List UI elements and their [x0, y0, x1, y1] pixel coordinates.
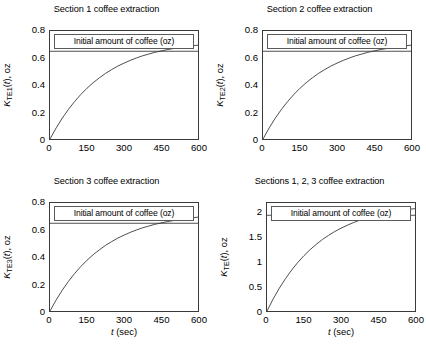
x-tick-label: 450	[366, 143, 382, 153]
y-tick-label: 0.8	[32, 25, 45, 35]
subplot-title: Section 3 coffee extraction	[0, 176, 213, 187]
x-tick-label: 150	[295, 315, 311, 325]
subplot-title: Section 2 coffee extraction	[213, 4, 426, 15]
x-axis-label: t (sec)	[266, 326, 416, 337]
y-axis-label-sub2: 3	[5, 259, 14, 263]
y-tick-label: 0.6	[245, 53, 258, 63]
x-tick-label: 600	[191, 315, 207, 325]
x-tick-label: 0	[46, 315, 51, 325]
y-tick-label: 0.6	[32, 225, 45, 235]
y-tick-label: 0.6	[32, 53, 45, 63]
y-axis-label-sub: TE	[218, 91, 227, 100]
legend-initial-amount: Initial amount of coffee (oz)	[54, 206, 194, 221]
subplot-section-2: Section 2 coffee extraction KTE2(t), oz …	[213, 0, 426, 172]
y-tick-label: 0.2	[32, 108, 45, 118]
legend-initial-amount: Initial amount of coffee (oz)	[54, 34, 194, 49]
x-tick-label: 150	[78, 143, 94, 153]
subplot-section-1: Section 1 coffee extraction KTE1(t), oz …	[0, 0, 213, 172]
coffee-extraction-figure: Section 1 coffee extraction KTE1(t), oz …	[0, 0, 426, 344]
x-tick-label: 450	[153, 143, 169, 153]
plot-area: Initial amount of coffee (oz)	[49, 202, 199, 312]
y-tick-label: 0.2	[32, 280, 45, 290]
y-axis-label: KTE2(t), oz	[214, 63, 229, 106]
x-tick-label: 600	[404, 143, 420, 153]
y-axis-label-sub2: 1	[5, 87, 14, 91]
x-tick-label: 0	[259, 143, 264, 153]
x-tick-label: 0	[263, 315, 268, 325]
x-tick-label: 0	[46, 143, 51, 153]
x-tick-label: 150	[291, 143, 307, 153]
x-tick-label: 300	[333, 315, 349, 325]
x-tick-label: 600	[408, 315, 424, 325]
y-tick-label: 0.8	[32, 197, 45, 207]
y-axis-label-sub: TE	[222, 261, 231, 270]
x-tick-label: 300	[116, 315, 132, 325]
y-axis-label-sub2: 2	[218, 87, 227, 91]
plot-area: Initial amount of coffee (oz)	[266, 202, 416, 312]
curve-ktE2	[263, 45, 411, 139]
subplot-title: Section 1 coffee extraction	[0, 4, 213, 15]
subplot-sections-1-2-3: Sections 1, 2, 3 coffee extraction KTE(t…	[213, 172, 426, 344]
x-tick-label: 300	[329, 143, 345, 153]
y-tick-label: 0	[40, 135, 45, 145]
x-tick-label: 300	[116, 143, 132, 153]
x-tick-label: 450	[153, 315, 169, 325]
y-axis-label: KTE3(t), oz	[1, 235, 16, 278]
y-tick-label: 0.2	[245, 108, 258, 118]
x-tick-label: 450	[370, 315, 386, 325]
subplot-title: Sections 1, 2, 3 coffee extraction	[213, 176, 426, 187]
y-axis-label: KTE(t), oz	[218, 237, 233, 276]
y-tick-label: 1	[257, 257, 262, 267]
y-axis-label: KTE1(t), oz	[1, 63, 16, 106]
y-tick-label: 0.4	[245, 80, 258, 90]
x-axis-label: t (sec)	[49, 326, 199, 337]
curve-ktE-total	[267, 209, 415, 311]
curve-ktE1	[50, 45, 198, 139]
plot-area: Initial amount of coffee (oz)	[49, 30, 199, 140]
legend-initial-amount: Initial amount of coffee (oz)	[267, 34, 407, 49]
y-tick-label: 0	[253, 135, 258, 145]
legend-initial-amount: Initial amount of coffee (oz)	[271, 206, 411, 221]
y-axis-label-sub: TE	[5, 91, 14, 100]
curve-ktE3	[50, 217, 198, 311]
subplot-section-3: Section 3 coffee extraction KTE3(t), oz …	[0, 172, 213, 344]
y-axis-label-sub: TE	[5, 263, 14, 272]
x-tick-label: 150	[78, 315, 94, 325]
y-tick-label: 0.4	[32, 80, 45, 90]
y-tick-label: 1.5	[249, 232, 262, 242]
x-tick-label: 600	[191, 143, 207, 153]
y-tick-label: 0.5	[249, 282, 262, 292]
y-tick-label: 0	[40, 307, 45, 317]
plot-area: Initial amount of coffee (oz)	[262, 30, 412, 140]
y-tick-label: 0.4	[32, 252, 45, 262]
y-tick-label: 2	[257, 207, 262, 217]
y-tick-label: 0	[257, 307, 262, 317]
y-tick-label: 0.8	[245, 25, 258, 35]
